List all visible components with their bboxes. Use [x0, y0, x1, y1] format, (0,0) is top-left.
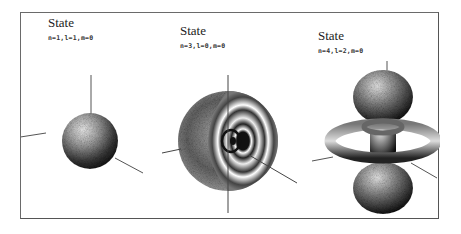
orbital-n3-cutaway — [162, 75, 297, 213]
figure-frame: State n=1,l=1,m=0 State n=3,l=0,m=0 Stat… — [20, 12, 439, 219]
orbital-n4-lobes-tori — [312, 61, 437, 214]
orbital-illustrations — [21, 13, 440, 220]
orbital-n1-sphere — [21, 75, 143, 173]
